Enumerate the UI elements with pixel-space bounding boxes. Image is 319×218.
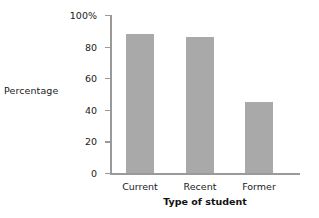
bar-current xyxy=(126,34,154,173)
y-tick-label-100: 100% xyxy=(70,10,97,21)
y-tick-label-60: 60 xyxy=(85,73,97,84)
plot-area: 0 20 40 60 80 100% Current Recent Former xyxy=(110,15,300,174)
y-tick-40: 40 xyxy=(105,110,110,111)
y-axis-line xyxy=(110,15,112,174)
y-tick-0: 0 xyxy=(105,173,110,174)
bar-recent xyxy=(186,37,214,173)
bar-chart: Percentage 0 20 40 60 80 100% Current Re… xyxy=(0,0,319,218)
bar-former xyxy=(245,102,273,173)
y-tick-label-20: 20 xyxy=(85,136,97,147)
x-tick-label-current: Current xyxy=(122,181,158,192)
y-tick-80: 80 xyxy=(105,47,110,48)
x-axis-line xyxy=(110,173,300,175)
x-axis-title: Type of student xyxy=(110,196,300,207)
y-tick-60: 60 xyxy=(105,78,110,79)
y-axis-title: Percentage xyxy=(4,85,70,96)
y-tick-label-80: 80 xyxy=(85,41,97,52)
y-tick-20: 20 xyxy=(105,141,110,142)
x-tick-label-recent: Recent xyxy=(184,181,217,192)
y-tick-label-40: 40 xyxy=(85,104,97,115)
y-tick-100: 100% xyxy=(105,15,110,16)
x-tick-label-former: Former xyxy=(242,181,276,192)
y-tick-label-0: 0 xyxy=(91,168,97,179)
